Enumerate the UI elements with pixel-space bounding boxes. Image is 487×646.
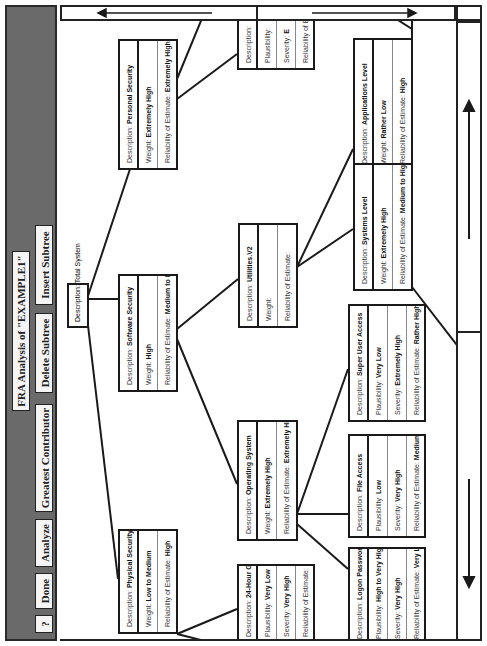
reliability-label: Reliability of Estimate: bbox=[284, 252, 291, 321]
plausibility-label: Plausibility: bbox=[375, 380, 382, 415]
description-label: Description: bbox=[245, 600, 252, 637]
horizontal-scrollbar[interactable] bbox=[456, 21, 482, 641]
link-utilities-applications bbox=[297, 149, 353, 267]
scroll-arrows-horizontal bbox=[458, 23, 480, 639]
node-description: Software Security bbox=[126, 287, 133, 346]
node-weight: Low to Medium bbox=[145, 550, 152, 601]
link-software-operating bbox=[177, 339, 237, 484]
node-weight: Rather Low bbox=[380, 100, 387, 138]
node-plausibility: Very Low bbox=[264, 569, 271, 600]
tree-node-super-user-access[interactable]: Description: Super User Access Plausibil… bbox=[348, 304, 426, 422]
tree-node-partial-offscreen[interactable]: Description: Plausibility: Severity: E R… bbox=[237, 21, 315, 70]
insert-subtree-button[interactable]: Insert Subtree bbox=[35, 225, 53, 305]
description-label: Description: bbox=[361, 247, 368, 284]
analyze-button[interactable]: Analyze bbox=[35, 519, 53, 567]
reliability-label: Reliability of Estimate: bbox=[399, 215, 406, 284]
tree-node-logon-passwords[interactable]: Description: Logon Passwords Plausibilit… bbox=[348, 547, 426, 641]
node-description: Operating System bbox=[245, 435, 252, 495]
node-plausibility: Very Low bbox=[375, 347, 382, 378]
description-label: Description: bbox=[246, 284, 253, 321]
node-description: Utilities.V2 bbox=[246, 246, 253, 282]
vertical-scrollbar[interactable] bbox=[60, 5, 456, 21]
node-reliability: Extremely High bbox=[164, 41, 171, 92]
reliability-label: Reliability of Estimate: bbox=[413, 346, 420, 415]
weight-label: Weight: bbox=[380, 140, 387, 164]
description-label: Description: bbox=[361, 127, 368, 164]
tree-node-software-security[interactable]: Description: Software Security Weight: H… bbox=[118, 274, 178, 392]
node-weight: Extremely High bbox=[264, 457, 271, 508]
reliability-label: Reliability of Estimate: bbox=[164, 316, 171, 385]
done-button[interactable]: Done bbox=[35, 573, 53, 609]
link-physical-guard bbox=[177, 609, 237, 634]
severity-label: Severity: bbox=[283, 36, 290, 63]
description-label: Description: bbox=[126, 126, 133, 163]
weight-label: Weight: bbox=[145, 603, 152, 627]
node-reliability: Medium to High bbox=[399, 165, 406, 213]
description-label: Description: bbox=[245, 497, 252, 534]
description-label: Description: bbox=[126, 348, 133, 385]
link-personal-offscreen bbox=[177, 21, 210, 79]
node-reliability: Medium to High bbox=[164, 276, 171, 314]
node-reliability: High bbox=[399, 78, 406, 94]
link-personal-partial bbox=[177, 54, 237, 99]
node-description: File Access bbox=[356, 454, 363, 492]
weight-label: Weight: bbox=[265, 297, 272, 321]
node-weight: Extremely High bbox=[145, 86, 152, 137]
help-button[interactable]: ? bbox=[35, 615, 53, 633]
severity-label: Severity: bbox=[394, 612, 401, 639]
link-operating-superuser bbox=[297, 369, 348, 514]
tree-node-24-hour-guard[interactable]: Description: 24-Hour Guard Plausibility:… bbox=[237, 564, 315, 641]
node-severity: E bbox=[283, 29, 290, 34]
link-operating-logon bbox=[297, 524, 348, 569]
link-applications-offscreen bbox=[365, 21, 412, 29]
node-severity: Very High bbox=[394, 578, 401, 610]
node-reliability: Medium bbox=[413, 436, 420, 460]
plausibility-label: Plausibility: bbox=[264, 602, 271, 637]
reliability-label: Reliability of Estimate: bbox=[302, 21, 309, 63]
reliability-label: Reliability of Estimate: bbox=[283, 465, 290, 534]
plausibility-label: Plausibility: bbox=[375, 496, 382, 531]
tree-node-utilities-v2[interactable]: Description: Utilities.V2 Weight: Reliab… bbox=[238, 223, 298, 328]
node-reliability: High bbox=[164, 541, 171, 557]
node-reliability: Rather High bbox=[413, 306, 420, 344]
tree-node-applications-level[interactable]: Description: Applications Level Weight: … bbox=[353, 38, 413, 171]
toolbar: ? Done Analyze Greatest Contributor Dele… bbox=[5, 5, 57, 641]
link-root-physical bbox=[87, 317, 118, 579]
node-weight: Extremely High bbox=[380, 207, 387, 258]
severity-label: Severity: bbox=[394, 504, 401, 531]
description-label: Description: bbox=[356, 602, 363, 639]
weight-label: Weight: bbox=[145, 139, 152, 163]
node-reliability: Extremely High bbox=[283, 422, 290, 463]
tree-node-personal-security[interactable]: Description: Personal Security Weight: E… bbox=[118, 39, 178, 170]
reliability-label: Reliability of Estimate: bbox=[164, 558, 171, 627]
node-description: Total System bbox=[74, 243, 81, 283]
tree-node-file-access[interactable]: Description: File Access Plausibility: L… bbox=[348, 434, 426, 538]
tree-node-physical-security[interactable]: Description: Physical Security Weight: L… bbox=[118, 529, 178, 634]
node-weight: High bbox=[145, 344, 152, 360]
plausibility-label: Plausibility: bbox=[264, 28, 271, 63]
reliability-label: Reliability of Estimate: bbox=[413, 462, 420, 531]
node-description: Logon Passwords bbox=[356, 549, 363, 600]
reliability-label: Reliability of Estimate: bbox=[413, 570, 420, 639]
description-label: Description: bbox=[245, 26, 252, 63]
tree-canvas[interactable]: Description: Total System Description: P… bbox=[60, 21, 456, 641]
node-plausibility: Low bbox=[375, 480, 382, 494]
scroll-arrows-vertical bbox=[62, 7, 454, 19]
node-plausibility: High to Very High bbox=[375, 549, 382, 602]
weight-label: Weight: bbox=[380, 260, 387, 284]
delete-subtree-button[interactable]: Delete Subtree bbox=[35, 313, 53, 393]
tree-node-operating-system[interactable]: Description: Operating System Weight: Ex… bbox=[237, 420, 298, 541]
tree-node-systems-level[interactable]: Description: Systems Level Weight: Extre… bbox=[353, 163, 413, 291]
window-title: FRA Analysis of "EXAMPLE1" bbox=[12, 251, 30, 411]
severity-label: Severity: bbox=[394, 388, 401, 415]
node-description: Systems Level bbox=[361, 196, 368, 245]
description-label: Description: bbox=[126, 590, 133, 627]
link-software-utilities bbox=[177, 279, 238, 329]
node-description: 24-Hour Guard bbox=[245, 566, 252, 598]
description-label: Description: bbox=[74, 285, 81, 322]
reliability-label: Reliability of Estimate: bbox=[164, 94, 171, 163]
reliability-label: Reliability of Estimate: bbox=[399, 95, 406, 164]
greatest-contributor-button[interactable]: Greatest Contributor bbox=[35, 404, 53, 512]
node-description: Super User Access bbox=[356, 313, 363, 377]
tree-node-total-system[interactable]: Description: Total System bbox=[67, 283, 89, 328]
